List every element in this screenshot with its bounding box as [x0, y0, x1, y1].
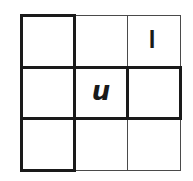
thick-middle-row-bottom [20, 117, 182, 120]
letter-grid: l u [0, 0, 193, 181]
cell-letter-top-right: l [142, 28, 162, 52]
thick-middle-row-right [179, 66, 182, 120]
thick-left-edge [20, 14, 23, 172]
grid-line-col2-top-thin [127, 15, 128, 68]
grid-line-right-top-thin [180, 15, 181, 68]
thick-middle-row-top [20, 66, 182, 69]
thick-left-col-right-edge [73, 14, 76, 172]
thick-top-left [20, 14, 76, 17]
thick-middle-row-col2 [126, 66, 129, 120]
grid-line-right-bottom-thin [180, 118, 181, 171]
thick-bottom-left [20, 169, 76, 172]
cell-letter-center: u [87, 78, 115, 104]
grid-line-col2-bottom-thin [127, 118, 128, 171]
